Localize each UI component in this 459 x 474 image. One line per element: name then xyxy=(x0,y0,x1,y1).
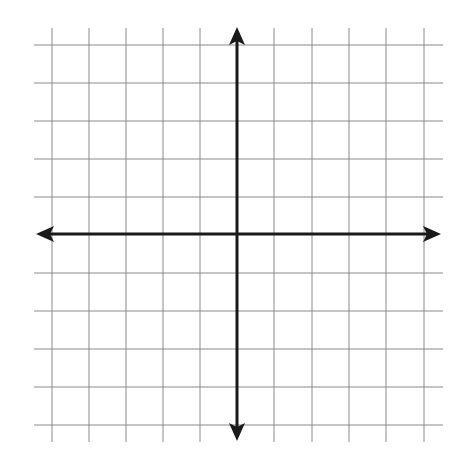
axes xyxy=(36,27,441,441)
coordinate-plane xyxy=(0,0,459,474)
